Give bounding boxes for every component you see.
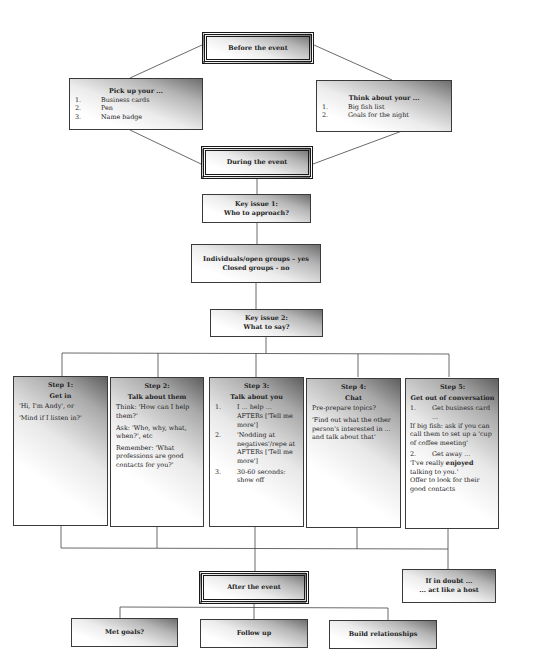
step-5-title: Get out of conversation [410,394,495,403]
list-item: 2.'Nodding at negatives'/repe at AFTERs … [215,431,298,466]
step-2-text: Think: 'How can I help them?' [116,403,198,420]
step-5-text: Offer to look for their good contacts [410,476,495,493]
step-5-label: Step 5: [410,383,495,392]
groups-box: Individuals/open groups – yes Closed gro… [191,244,321,283]
list-item: 3.Name badge [75,113,197,122]
before-event-label: Before the event [228,44,287,53]
step-5-text: If big fish: ask if you can call them to… [410,422,495,448]
list-item: 1.Get business card ... [410,404,495,421]
step-3-list: 1.I ... help ... AFTERs ['Tell me more']… [215,403,298,485]
list-item: 1.Big fish list [322,103,446,112]
step-1-box: Step 1: Get in 'Hi, I'm Andy', or 'Mind … [13,376,108,526]
before-event-box: Before the event [202,32,314,64]
outcome-build-relationships-box: Build relationships [329,620,437,649]
step-3-title: Talk about you [215,393,298,402]
after-event-label: After the event [227,583,281,592]
step-5-list-2: 2.Get away ... [410,450,495,459]
step-3-box: Step 3: Talk about you 1.I ... help ... … [209,377,304,527]
after-event-box: After the event [199,571,309,604]
key-issue-2-question: What to say? [244,323,290,332]
step-2-title: Talk about them [116,393,198,402]
step-2-box: Step 2: Talk about them Think: 'How can … [110,377,204,527]
step-3-label: Step 3: [215,382,298,391]
pickup-title: Pick up your ... [75,87,197,96]
outcome-follow-up-box: Follow up [200,619,308,648]
step-1-text: 'Hi, I'm Andy', or [19,402,102,411]
pickup-box: Pick up your ... 1.Business cards 2.Pen … [69,78,203,130]
if-in-doubt-box: If in doubt ... ... act like a host [402,569,496,603]
groups-yes: Individuals/open groups – yes [203,255,309,264]
key-issue-1-question: Who to approach? [224,209,289,218]
step-2-label: Step 2: [116,382,198,391]
list-item: 3.30-60 seconds: show off [215,468,298,485]
step-4-title: Chat [312,394,395,403]
think-box: Think about your ... 1.Big fish list 2.G… [316,80,452,132]
key-issue-1-label: Key issue 1: [235,200,278,209]
outcome-build-relationships: Build relationships [349,630,418,639]
step-5-quote: 'I've really enjoyed talking to you.' [410,459,495,476]
step-4-text: Pre-prepare topics? [312,404,395,413]
step-1-text: 'Mind if I listen in?' [19,414,102,423]
list-item: 1.I ... help ... AFTERs ['Tell me more'] [215,403,298,429]
if-in-doubt-line1: If in doubt ... [426,577,473,586]
step-2-text: Remember: 'What professions are good con… [116,444,198,470]
think-list: 1.Big fish list 2.Goals for the night [322,103,446,120]
groups-no: Closed groups - no [223,264,290,273]
list-item: 1.Business cards [75,96,197,105]
step-5-box: Step 5: Get out of conversation 1.Get bu… [405,378,499,529]
list-item: 2.Get away ... [410,450,495,459]
if-in-doubt-line2: ... act like a host [419,586,479,595]
step-5-list-1: 1.Get business card ... [410,404,495,421]
during-event-box: During the event [201,146,313,179]
step-4-label: Step 4: [312,383,395,392]
key-issue-1-box: Key issue 1: Who to approach? [202,194,311,223]
think-title: Think about your ... [322,94,446,103]
step-4-box: Step 4: Chat Pre-prepare topics? 'Find o… [306,378,401,528]
list-item: 2.Goals for the night [322,111,446,120]
during-event-label: During the event [227,158,288,167]
outcome-met-goals: Met goals? [105,628,144,637]
outcome-follow-up: Follow up [237,629,271,638]
step-1-label: Step 1: [19,381,102,390]
step-2-text: Ask: 'Who, why, what, when?', etc [116,424,198,441]
outcome-met-goals-box: Met goals? [71,618,178,647]
step-1-title: Get in [19,392,102,401]
key-issue-2-label: Key issue 2: [245,314,288,323]
pickup-list: 1.Business cards 2.Pen 3.Name badge [75,96,197,122]
step-4-text: 'Find out what the other person's intere… [312,416,395,442]
list-item: 2.Pen [75,104,197,113]
key-issue-2-box: Key issue 2: What to say? [210,309,323,337]
